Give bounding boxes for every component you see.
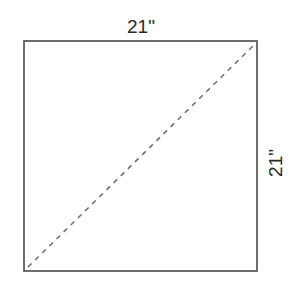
square-diagram: 21" 21" — [0, 0, 299, 289]
top-dimension-label: 21" — [127, 16, 155, 37]
right-dimension-label: 21" — [265, 149, 286, 177]
dashed-diagonal — [28, 44, 255, 267]
